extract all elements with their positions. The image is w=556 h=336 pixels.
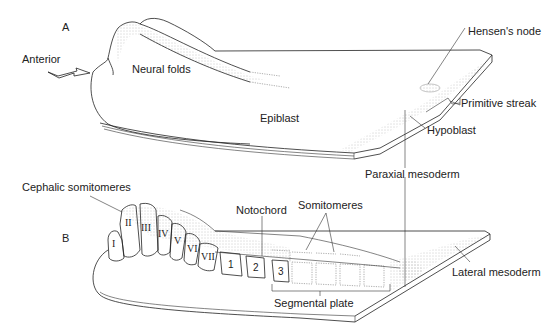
somite-3: 3 [278,266,284,277]
somitomere-ii: II [125,217,132,228]
lateral-mesoderm-label: Lateral mesoderm [452,266,541,278]
primitive-streak-label: Primitive streak [461,97,537,109]
cephalic-somitomeres-label: Cephalic somitomeres [22,181,131,193]
panel-a-label: A [62,21,70,33]
somitomere-i: I [112,238,115,249]
embryo-diagram: A Anterior Neural folds Epiblast [0,0,556,336]
somite-1: 1 [228,259,234,270]
paraxial-mesoderm-label: Paraxial mesoderm [365,168,460,180]
somitomere-vi: VI [187,243,198,254]
notochord-label: Notochord [236,204,287,216]
hypoblast-label: Hypoblast [427,124,476,136]
epiblast-label: Epiblast [260,112,299,124]
somitomere-v: V [174,235,182,246]
panel-b: B Cephalic somitomeres I II III IV V VI … [22,181,541,322]
somitomere-vii: VII [201,251,215,262]
segmental-plate-label: Segmental plate [274,297,354,309]
anterior-arrow-icon [48,68,90,78]
somitomere-iii: III [141,222,151,233]
panel-b-label: B [62,232,69,244]
neural-folds-label: Neural folds [132,63,191,75]
somitomeres-label: Somitomeres [298,199,363,211]
anterior-label: Anterior [22,53,61,65]
somite-2: 2 [253,262,259,273]
hensens-node-label: Hensen's node [468,25,541,37]
somitomere-iv: IV [158,228,169,239]
